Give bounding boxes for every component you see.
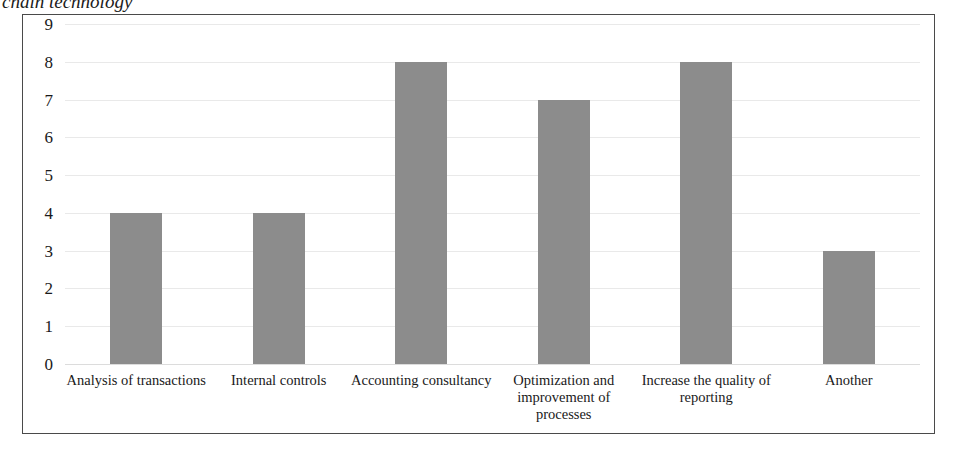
gridline (65, 62, 920, 63)
bar (395, 62, 447, 364)
gridline (65, 100, 920, 101)
gridline (65, 24, 920, 25)
x-axis-tick-label: Analysis of transactions (61, 372, 211, 389)
chart-frame: 0123456789 Analysis of transactionsInter… (22, 14, 935, 434)
gridline (65, 326, 920, 327)
gridline (65, 175, 920, 176)
bar (253, 213, 305, 364)
y-axis-tick-label: 4 (45, 204, 54, 221)
y-axis-tick-label: 3 (45, 242, 54, 259)
bar (110, 213, 162, 364)
y-axis-tick-label: 8 (45, 53, 54, 70)
x-axis-tick-label: Increase the quality of reporting (631, 372, 781, 406)
x-axis-tick-label: Optimization and improvement of processe… (489, 372, 639, 423)
chart-caption: chain technology (0, 0, 962, 13)
y-axis-tick-label: 6 (45, 129, 54, 146)
bar (680, 62, 732, 364)
x-axis-tick-label: Accounting consultancy (346, 372, 496, 389)
y-axis-tick-label: 1 (45, 318, 54, 335)
bar (538, 100, 590, 364)
gridline (65, 213, 920, 214)
y-axis-tick-label: 5 (45, 167, 54, 184)
chart-caption-text: chain technology (2, 0, 132, 13)
x-axis-tick-label: Another (774, 372, 924, 389)
x-axis-tick-label: Internal controls (204, 372, 354, 389)
y-axis-tick-label: 0 (45, 356, 54, 373)
y-axis-tick-label: 9 (45, 16, 54, 33)
gridline (65, 288, 920, 289)
y-axis-tick-label: 7 (45, 91, 54, 108)
plot-area: 0123456789 Analysis of transactionsInter… (65, 24, 920, 364)
bar (823, 251, 875, 364)
gridline (65, 137, 920, 138)
gridline (65, 364, 920, 365)
y-axis-tick-label: 2 (45, 280, 54, 297)
gridline (65, 251, 920, 252)
